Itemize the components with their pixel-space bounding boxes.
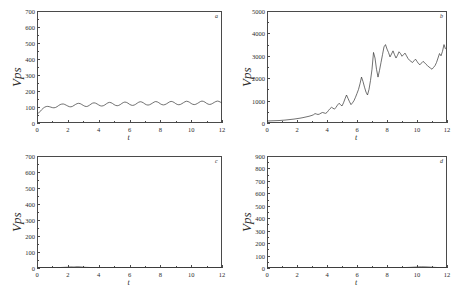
y-tick-label: 200	[245, 240, 265, 247]
y-tick-label: 800	[245, 165, 265, 172]
y-tick-label: 500	[245, 202, 265, 209]
x-tick-label: 12	[444, 271, 451, 278]
y-tick-label: 600	[245, 190, 265, 197]
y-tick-label: 900	[245, 153, 265, 160]
x-tick-label: 2	[295, 271, 298, 278]
x-tick-label: 10	[414, 271, 421, 278]
x-tick-label: 6	[355, 271, 358, 278]
panel-d: dVpst01002003004005006007008009000246810…	[0, 0, 451, 295]
y-tick-label: 100	[245, 252, 265, 259]
y-tick-label: 0	[245, 265, 265, 272]
x-tick-label: 0	[265, 271, 268, 278]
y-tick-label: 400	[245, 215, 265, 222]
curve-svg-d	[267, 156, 447, 268]
figure-multi-panel-plot: aVpst0100200300400500600700024681012bVps…	[0, 0, 451, 295]
data-curve-d	[267, 267, 447, 268]
y-tick-label: 700	[245, 177, 265, 184]
y-tick-label: 300	[245, 227, 265, 234]
x-tick-label: 4	[325, 271, 328, 278]
x-axis-label-d: t	[355, 278, 357, 287]
x-tick-mark	[447, 265, 448, 268]
x-tick-label: 8	[385, 271, 388, 278]
y-tick-mark	[267, 268, 270, 269]
